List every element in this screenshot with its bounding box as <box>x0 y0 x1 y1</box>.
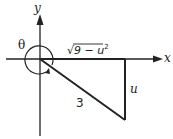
exponent: 2 <box>104 43 108 51</box>
x-axis-arrow-icon <box>153 56 163 63</box>
angle-label: θ <box>18 39 25 51</box>
diagram-svg <box>0 0 173 139</box>
vertical-side-label: u <box>130 83 138 95</box>
diagram-canvas: y x θ 3 u √9 − u2 <box>0 0 173 139</box>
radical-sign: √ <box>67 44 74 57</box>
angle-arrow-icon <box>45 68 50 74</box>
horizontal-side-label: √9 − u2 <box>67 44 109 56</box>
radicand: 9 − u <box>74 44 104 57</box>
x-axis-label: x <box>164 52 171 64</box>
hypotenuse-label: 3 <box>76 97 84 109</box>
y-axis-arrow-icon <box>37 14 44 25</box>
hypotenuse <box>40 59 125 120</box>
y-axis-label: y <box>34 2 41 14</box>
